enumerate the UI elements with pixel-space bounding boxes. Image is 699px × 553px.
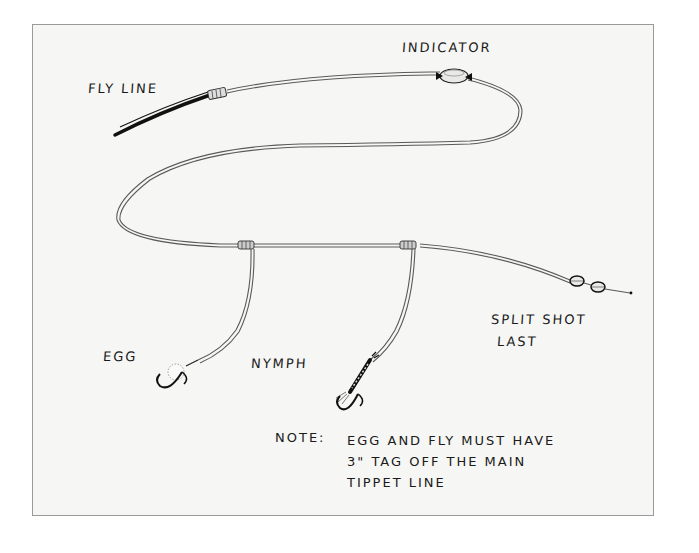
indicator-label: INDICATOR xyxy=(401,40,492,55)
note-line: TIPPET LINE xyxy=(347,472,555,493)
note-heading: NOTE: xyxy=(275,430,326,445)
split-shot-icon xyxy=(570,276,632,294)
fly-line xyxy=(115,92,210,135)
last-label: LAST xyxy=(496,334,538,349)
tippet-line xyxy=(245,244,570,283)
fly-line-label: FLY LINE xyxy=(87,81,158,96)
blood-knot-icon xyxy=(238,241,254,249)
nymph-fly-icon xyxy=(336,352,379,409)
split-shot-label: SPLIT SHOT xyxy=(490,312,587,327)
indicator-icon xyxy=(436,69,472,83)
note-line: 3" TAG OFF THE MAIN xyxy=(347,451,555,472)
egg-tag-line xyxy=(198,249,254,363)
egg-fly-icon xyxy=(157,360,198,387)
nail-knot-icon xyxy=(207,87,226,100)
nymph-tag-line xyxy=(370,249,415,362)
blood-knot-icon xyxy=(400,241,416,249)
note-block: NOTE: EGG AND FLY MUST HAVE 3" TAG OFF T… xyxy=(275,430,655,500)
leader-line xyxy=(117,72,522,247)
note-line: EGG AND FLY MUST HAVE xyxy=(347,430,555,451)
egg-label: EGG xyxy=(102,349,137,364)
nymph-label: NYMPH xyxy=(250,356,308,371)
